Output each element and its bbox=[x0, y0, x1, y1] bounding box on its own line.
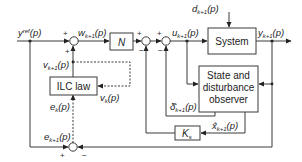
y-to-observer-line bbox=[259, 41, 272, 84]
error-minus-sign: − bbox=[82, 151, 87, 160]
sum-junction-3 bbox=[162, 37, 170, 45]
v-k-label: vk(p) bbox=[100, 92, 119, 104]
delta-hat-label: δ̂k+1(p) bbox=[170, 101, 197, 113]
e-k-label: ek(p) bbox=[50, 101, 70, 113]
y-ref-label: yref(p) bbox=[17, 27, 41, 38]
sum-junction-1 bbox=[70, 37, 78, 45]
e-next-label: ek+1(p) bbox=[44, 131, 71, 143]
error-sum-junction bbox=[69, 143, 77, 151]
sum2-minus-sign: − bbox=[139, 46, 144, 55]
observer-label-2: disturbance bbox=[203, 82, 255, 93]
sum1-plus-sign-2: + bbox=[65, 47, 70, 56]
sum-junction-2 bbox=[142, 37, 150, 45]
sum3-plus-sign: + bbox=[157, 29, 162, 38]
u-to-observer-line bbox=[187, 41, 198, 84]
w-label: wk+1(p) bbox=[78, 27, 106, 39]
n-block-label: N bbox=[118, 37, 126, 48]
sum3-minus-sign: − bbox=[158, 46, 163, 55]
error-plus-sign: + bbox=[60, 151, 65, 160]
sum1-plus-sign: + bbox=[63, 29, 68, 38]
ilc-law-label: ILC law bbox=[57, 81, 91, 92]
d-label: dk+1(p) bbox=[192, 3, 219, 15]
observer-label-3: observer bbox=[209, 94, 249, 105]
y-label: yk+1(p) bbox=[257, 27, 284, 39]
ks-feedback-line bbox=[146, 46, 175, 133]
observer-label-1: State and bbox=[207, 70, 250, 81]
block-diagram: N System State and disturbance observer … bbox=[0, 0, 302, 162]
v-next-label: vk+1(p) bbox=[43, 59, 69, 71]
u-label: uk+1(p) bbox=[172, 27, 199, 39]
system-block-label: System bbox=[215, 36, 248, 47]
sum2-plus-sign: + bbox=[137, 29, 142, 38]
x-hat-label: x̂k+1(p) bbox=[211, 120, 238, 132]
